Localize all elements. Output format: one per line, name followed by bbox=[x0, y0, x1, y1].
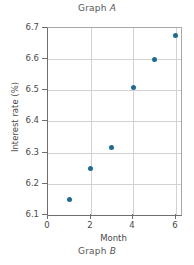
y-tick-mark bbox=[42, 120, 47, 121]
gridline-horizontal bbox=[48, 184, 181, 185]
gridline-vertical bbox=[91, 28, 92, 215]
data-point bbox=[109, 145, 114, 150]
x-tick-mark bbox=[47, 214, 48, 219]
data-point bbox=[88, 166, 93, 171]
y-tick-mark bbox=[42, 183, 47, 184]
chart-caption-italic: B bbox=[110, 246, 116, 256]
gridline-horizontal bbox=[48, 121, 181, 122]
chart-title-italic: A bbox=[110, 3, 116, 13]
y-tick-label: 6.1 bbox=[0, 210, 39, 219]
plot-area bbox=[47, 27, 182, 216]
x-tick-label: 2 bbox=[78, 221, 102, 230]
y-tick-mark bbox=[42, 27, 47, 28]
x-tick-label: 6 bbox=[163, 221, 187, 230]
x-tick-mark bbox=[175, 214, 176, 219]
y-tick-mark bbox=[42, 89, 47, 90]
chart-caption-text: Graph bbox=[78, 246, 110, 256]
figure-container: Graph A 6.16.26.36.46.56.66.7 0246 Month… bbox=[0, 0, 194, 265]
y-tick-mark bbox=[42, 58, 47, 59]
chart-title-text: Graph bbox=[78, 3, 110, 13]
data-point bbox=[67, 197, 72, 202]
gridline-horizontal bbox=[48, 90, 181, 91]
y-tick-label: 6.2 bbox=[0, 179, 39, 188]
x-tick-label: 0 bbox=[35, 221, 59, 230]
data-point bbox=[152, 57, 157, 62]
gridline-vertical bbox=[176, 28, 177, 215]
data-point bbox=[131, 85, 136, 90]
x-axis-label: Month bbox=[47, 233, 180, 243]
gridline-horizontal bbox=[48, 59, 181, 60]
chart-title: Graph A bbox=[0, 3, 194, 13]
gridline-vertical bbox=[133, 28, 134, 215]
y-tick-mark bbox=[42, 152, 47, 153]
chart-caption: Graph B bbox=[0, 246, 194, 256]
x-tick-mark bbox=[132, 214, 133, 219]
x-tick-label: 4 bbox=[120, 221, 144, 230]
y-axis-label: Interest rate (%) bbox=[10, 57, 20, 177]
gridline-horizontal bbox=[48, 153, 181, 154]
y-tick-label: 6.7 bbox=[0, 23, 39, 32]
data-point bbox=[173, 33, 178, 38]
x-tick-mark bbox=[90, 214, 91, 219]
